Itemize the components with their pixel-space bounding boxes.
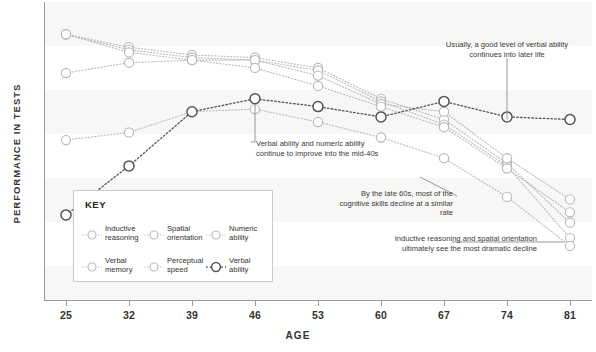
legend-marker-icon (82, 259, 102, 271)
annotation-improve-mid-40s: Verbal ability and numeric ability conti… (256, 139, 386, 158)
x-tick-label-46: 46 (235, 309, 275, 321)
x-axis-tick (192, 301, 193, 306)
background-band (44, 90, 592, 134)
x-tick-label-60: 60 (361, 309, 401, 321)
x-tick-label-67: 67 (424, 309, 464, 321)
x-tick-label-53: 53 (298, 309, 338, 321)
legend-item-perceptual-speed[interactable]: Perceptual speed (144, 249, 206, 281)
legend-label: Inductive reasoning (105, 224, 138, 243)
x-axis-tick (381, 301, 382, 306)
legend-label: Spatial orientation (167, 224, 202, 243)
x-tick-label-81: 81 (550, 309, 590, 321)
legend-label: Verbal memory (105, 256, 132, 275)
legend-item-verbal-memory[interactable]: Verbal memory (82, 249, 144, 281)
x-axis-tick (66, 301, 67, 306)
x-axis-tick (570, 301, 571, 306)
legend-label: Verbal ability (229, 256, 251, 275)
legend-marker-icon (82, 227, 102, 239)
legend-marker-icon (144, 227, 164, 239)
x-axis-tick (444, 301, 445, 306)
legend-marker-icon (206, 259, 226, 271)
x-tick-label-74: 74 (487, 309, 527, 321)
annotation-dramatic-decline: Inductive reasoning and spatial orientat… (392, 234, 537, 253)
legend-title: KEY (85, 199, 106, 210)
legend-label: Numeric ability (229, 224, 257, 243)
legend-item-inductive-reasoning[interactable]: Inductive reasoning (82, 217, 144, 249)
legend-item-verbal-ability[interactable]: Verbal ability (206, 249, 268, 281)
annotation-verbal-later-life: Usually, a good level of verbal ability … (432, 40, 582, 59)
legend-box: KEY Inductive reasoningSpatial orientati… (73, 190, 273, 282)
legend-marker-icon (206, 227, 226, 239)
annotation-late-60s-decline: By the late 60s, most of the cognitive s… (335, 189, 453, 218)
x-tick-label-32: 32 (109, 309, 149, 321)
x-tick-label-39: 39 (172, 309, 212, 321)
x-tick-label-25: 25 (46, 309, 86, 321)
legend-item-spatial-orientation[interactable]: Spatial orientation (144, 217, 206, 249)
x-axis-tick (318, 301, 319, 306)
x-axis-tick (255, 301, 256, 306)
chart-figure: 253239465360677481 AGE PERFORMANCE IN TE… (0, 0, 596, 352)
x-axis-tick (507, 301, 508, 306)
legend-items: Inductive reasoningSpatial orientationNu… (82, 217, 268, 281)
x-axis-tick (129, 301, 130, 306)
y-axis-title: PERFORMANCE IN TESTS (11, 54, 22, 254)
legend-marker-icon (144, 259, 164, 271)
y-axis-line (44, 2, 45, 301)
x-axis-title: AGE (0, 330, 596, 341)
legend-label: Perceptual speed (167, 256, 203, 275)
legend-item-numeric-ability[interactable]: Numeric ability (206, 217, 268, 249)
